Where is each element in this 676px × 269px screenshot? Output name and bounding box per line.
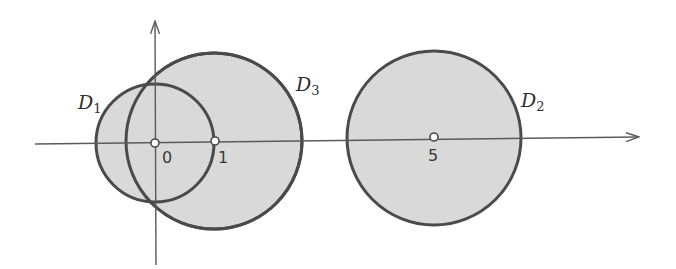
tick-label-5: 5 (428, 148, 438, 164)
label-d2-letter: D (521, 89, 536, 111)
label-d3-letter: D (296, 73, 311, 95)
label-d2-subscript: 2 (536, 99, 544, 114)
tick-label-0: 0 (162, 150, 172, 166)
point-five (430, 133, 438, 141)
label-d1-subscript: 1 (93, 101, 101, 116)
disk-diagram: D1 D3 D2 0 1 5 (0, 0, 676, 269)
label-d3-subscript: 3 (311, 83, 319, 98)
label-d3: D3 (296, 75, 320, 97)
point-one (211, 137, 219, 145)
tick-label-1: 1 (218, 150, 228, 166)
label-d1-letter: D (78, 91, 93, 113)
diagram-svg (0, 0, 676, 269)
label-d2: D2 (521, 91, 545, 113)
point-origin (151, 139, 159, 147)
label-d1: D1 (78, 93, 102, 115)
